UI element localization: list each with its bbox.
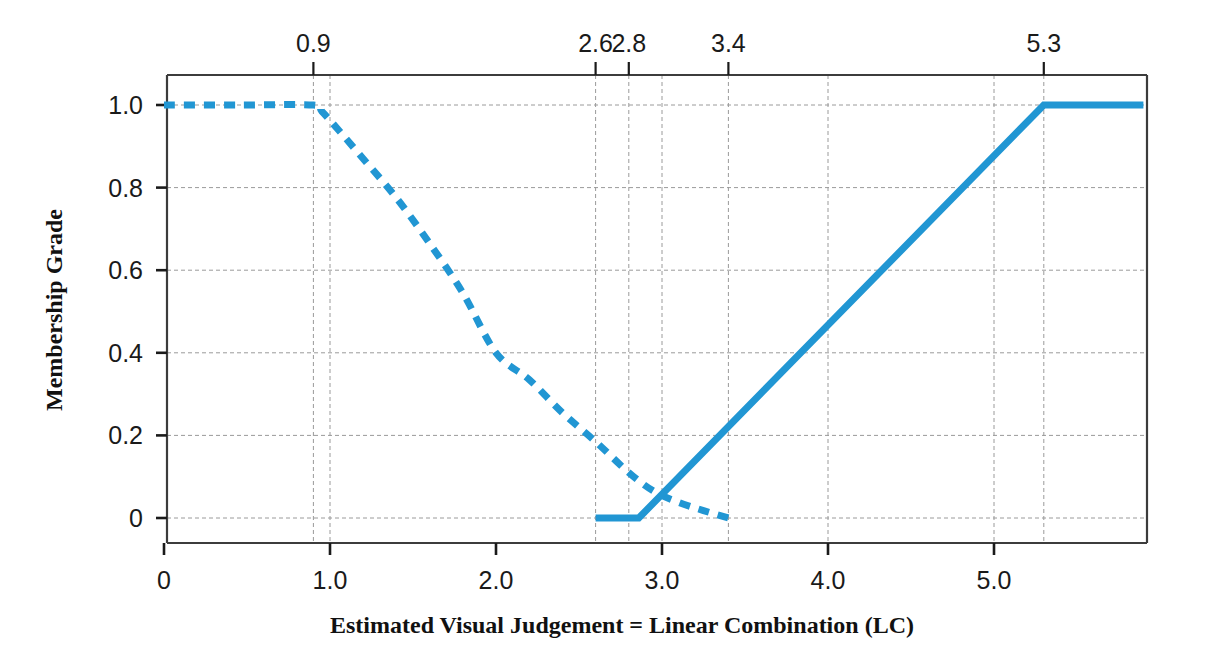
chart-background xyxy=(0,0,1212,655)
chart-figure: 1.00.80.60.40.20 01.02.03.04.05.0 0.92.6… xyxy=(0,0,1212,655)
y-tick-label: 0.2 xyxy=(108,421,143,449)
x-tick-label: 2.0 xyxy=(479,566,514,594)
x-tick-label: 0 xyxy=(157,566,171,594)
top-tick-label: 2.8 xyxy=(611,29,646,57)
chart-svg: 1.00.80.60.40.20 01.02.03.04.05.0 0.92.6… xyxy=(0,0,1212,655)
y-tick-label: 0.8 xyxy=(108,174,143,202)
x-tick-label: 1.0 xyxy=(313,566,348,594)
x-tick-label: 3.0 xyxy=(645,566,680,594)
y-axis-title: Membership Grade xyxy=(41,209,67,411)
x-tick-label: 4.0 xyxy=(811,566,846,594)
y-tick-label: 0.6 xyxy=(108,256,143,284)
top-tick-label: 3.4 xyxy=(711,29,746,57)
x-tick-label: 5.0 xyxy=(977,566,1012,594)
top-tick-label: 0.9 xyxy=(296,29,331,57)
y-tick-label: 1.0 xyxy=(108,91,143,119)
top-tick-label: 2.6 xyxy=(578,29,613,57)
y-tick-label: 0 xyxy=(129,504,143,532)
x-axis-title: Estimated Visual Judgement = Linear Comb… xyxy=(330,612,914,638)
top-tick-label: 5.3 xyxy=(1026,29,1061,57)
y-tick-label: 0.4 xyxy=(108,339,143,367)
